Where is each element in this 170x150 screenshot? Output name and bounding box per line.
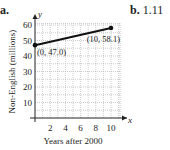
x-axis-arrow-icon [122, 116, 127, 121]
data-point [109, 26, 114, 31]
point-annotation: (0, 47.0) [37, 47, 66, 57]
y-axis-arrow-icon [33, 14, 38, 19]
x-tick-label: 6 [78, 123, 83, 133]
y-tick-label: 40 [23, 51, 33, 61]
y-axis-label: Non-English (millions) [7, 30, 17, 114]
y-tick-label: 10 [23, 98, 33, 108]
x-axis-label: Years after 2000 [43, 136, 103, 146]
y-axis-letter: y [37, 9, 42, 19]
x-tick-label: 2 [48, 123, 53, 133]
x-tick-label: 4 [63, 123, 68, 133]
line-chart: xy246810102030405060Years after 2000Non-… [0, 0, 170, 150]
point-annotation: (10, 58.1) [87, 34, 120, 44]
y-tick-label: 30 [23, 67, 33, 77]
y-tick-label: 50 [23, 36, 33, 46]
x-axis-letter: x [127, 115, 132, 125]
x-tick-label: 8 [94, 123, 99, 133]
x-tick-label: 10 [107, 123, 117, 133]
y-tick-label: 60 [23, 20, 33, 30]
y-tick-label: 20 [23, 82, 33, 92]
